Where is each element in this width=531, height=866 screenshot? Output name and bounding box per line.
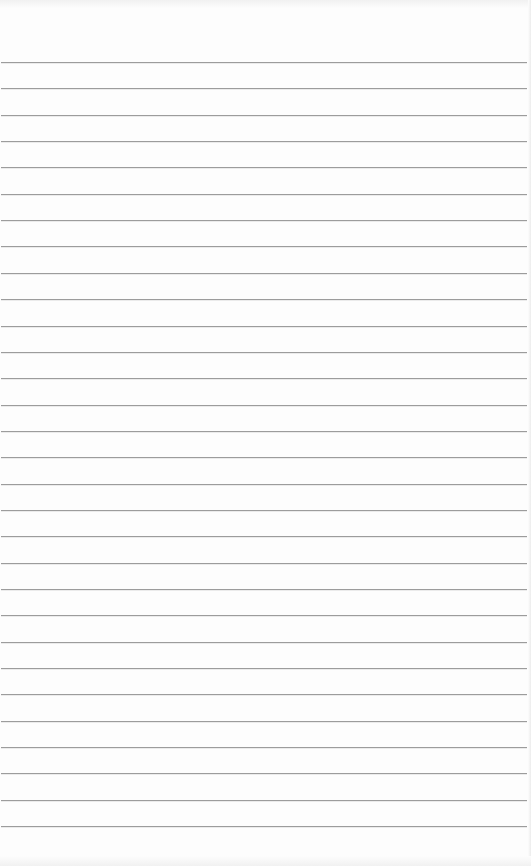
ruled-line (1, 88, 527, 89)
ruled-line (1, 405, 527, 406)
ruled-line (1, 62, 527, 63)
ruled-lines (0, 0, 531, 866)
ruled-line (1, 721, 527, 722)
ruled-line (1, 826, 527, 827)
ruled-line (1, 299, 527, 300)
ruled-line (1, 694, 527, 695)
ruled-line (1, 747, 527, 748)
ruled-line (1, 773, 527, 774)
ruled-line (1, 246, 527, 247)
ruled-line (1, 457, 527, 458)
ruled-line (1, 800, 527, 801)
page-bottom-edge (0, 856, 531, 866)
ruled-line (1, 273, 527, 274)
ruled-line (1, 642, 527, 643)
ruled-line (1, 115, 527, 116)
ruled-line (1, 484, 527, 485)
ruled-line (1, 378, 527, 379)
ruled-line (1, 352, 527, 353)
ruled-line (1, 141, 527, 142)
ruled-line (1, 167, 527, 168)
ruled-line (1, 326, 527, 327)
ruled-line (1, 431, 527, 432)
ruled-line (1, 194, 527, 195)
ruled-line (1, 536, 527, 537)
ruled-line (1, 563, 527, 564)
ruled-line (1, 668, 527, 669)
ruled-line (1, 510, 527, 511)
ruled-line (1, 615, 527, 616)
ruled-line (1, 220, 527, 221)
ruled-line (1, 589, 527, 590)
ruled-paper-page (0, 0, 531, 866)
